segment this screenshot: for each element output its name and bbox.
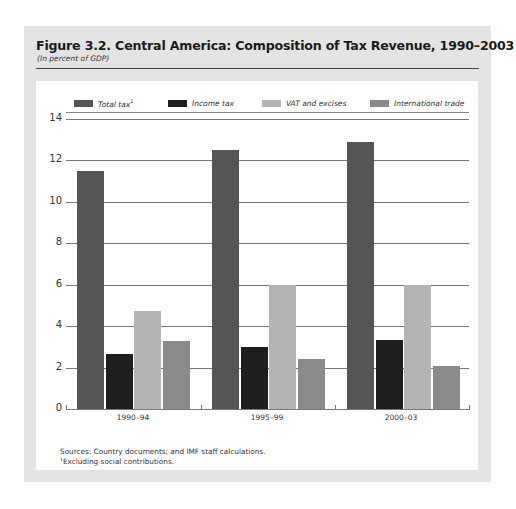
footnote: 1Excluding social contributions. [60, 457, 174, 466]
legend-label-text: International trade [394, 99, 464, 108]
x-category-label: 1995–99 [200, 413, 334, 422]
legend-item: Income tax [168, 99, 234, 108]
gridline [66, 119, 469, 120]
legend-rule [66, 112, 469, 113]
title-rule [36, 68, 479, 69]
gridline [66, 243, 469, 244]
x-tick [335, 405, 336, 410]
gridline [66, 202, 469, 203]
legend-label-text: Income tax [192, 99, 234, 108]
y-tick-label: 2 [44, 361, 62, 372]
legend-item: VAT and excises [262, 99, 346, 108]
legend-footnote-marker: 1 [130, 98, 133, 104]
y-tick-label: 10 [44, 195, 62, 206]
x-tick [201, 405, 202, 410]
legend-label-text: VAT and excises [286, 99, 346, 108]
bar-vat-and-excises [269, 285, 296, 409]
legend-swatch [370, 100, 389, 107]
legend-item: International trade [370, 99, 464, 108]
source-note: Sources: Country documents; and IMF staf… [60, 447, 266, 456]
legend-label-text: Total tax [98, 100, 130, 109]
x-axis [66, 409, 469, 410]
bar-income-tax [241, 347, 268, 409]
x-category-label: 2000–03 [334, 413, 468, 422]
y-tick-label: 0 [44, 402, 62, 413]
legend-swatch [262, 100, 281, 107]
legend-swatch [168, 100, 187, 107]
bar-total-tax [212, 150, 239, 409]
x-tick [469, 405, 470, 410]
legend-label: Total tax1 [98, 98, 133, 109]
bar-international-trade [298, 359, 325, 409]
y-tick-label: 14 [44, 112, 62, 123]
bar-international-trade [433, 366, 460, 410]
legend-label: Income tax [192, 99, 234, 108]
bar-income-tax [106, 354, 133, 409]
bar-vat-and-excises [134, 311, 161, 409]
bar-income-tax [376, 340, 403, 409]
bar-vat-and-excises [404, 285, 431, 409]
legend-label: VAT and excises [286, 99, 346, 108]
legend-swatch [74, 100, 93, 107]
legend-item: Total tax1 [74, 99, 133, 108]
figure-subtitle: (In percent of GDP) [37, 54, 109, 63]
x-tick [66, 405, 67, 410]
footnote-text: Excluding social contributions. [63, 457, 174, 466]
bar-total-tax [77, 171, 104, 409]
legend-label: International trade [394, 99, 464, 108]
y-tick-label: 8 [44, 236, 62, 247]
x-category-label: 1990–94 [66, 413, 200, 422]
gridline [66, 160, 469, 161]
y-tick-label: 4 [44, 319, 62, 330]
bar-total-tax [347, 142, 374, 409]
y-tick-label: 6 [44, 278, 62, 289]
bar-international-trade [163, 341, 190, 409]
y-tick-label: 12 [44, 153, 62, 164]
figure-title: Figure 3.2. Central America: Composition… [36, 38, 514, 53]
